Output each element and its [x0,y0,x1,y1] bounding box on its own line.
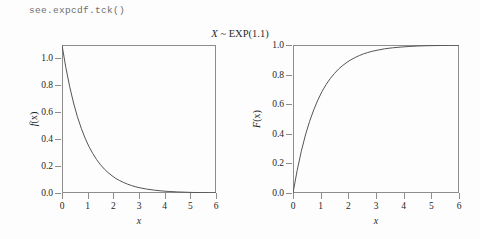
pdf-x-tick-label: 1 [85,201,90,211]
cdf-y-axis-title-arg: (x) [251,110,262,122]
cdf-x-tick [321,193,322,199]
cdf-plot-panel [293,45,459,193]
pdf-x-tick [139,193,140,199]
cdf-x-tick [431,193,432,199]
figure-title: X ~ EXP(1.1) [0,28,480,39]
pdf-x-tick-label: 4 [162,201,167,211]
pdf-x-tick-label: 6 [214,201,219,211]
cdf-y-tick [286,163,292,164]
pdf-y-tick [55,139,61,140]
cdf-y-tick [286,134,292,135]
cdf-y-tick [286,45,292,46]
cdf-x-tick [348,193,349,199]
cdf-x-tick [459,193,460,199]
cdf-x-tick-label: 1 [318,201,323,211]
cdf-y-axis-title: F(x) [251,110,262,128]
cdf-y-tick-label: 0.2 [272,158,284,168]
pdf-y-tick [55,193,61,194]
pdf-plot-panel [62,45,216,193]
pdf-y-tick [55,112,61,113]
cdf-y-tick-label: 0.0 [272,188,284,198]
pdf-x-tick-label: 5 [188,201,193,211]
pdf-x-tick-label: 2 [111,201,116,211]
pdf-y-tick-label: 0.4 [41,134,53,144]
pdf-x-tick [62,193,63,199]
cdf-x-axis-title: x [293,215,459,226]
console-command-text: see.expcdf.tck() [29,5,125,16]
pdf-y-tick [55,166,61,167]
cdf-y-tick [286,193,292,194]
pdf-y-axis-title-arg: (x) [28,112,39,124]
pdf-y-tick-label: 0.2 [41,161,53,171]
cdf-x-tick-label: 2 [346,201,351,211]
pdf-y-tick-label: 0.6 [41,107,53,117]
pdf-y-tick-label: 1.0 [41,53,53,63]
cdf-curve-svg [293,45,459,193]
pdf-x-tick-label: 3 [137,201,142,211]
figure-title-rest: ~ EXP(1.1) [218,28,269,39]
cdf-y-tick-label: 0.6 [272,99,284,109]
pdf-x-tick-label: 0 [60,201,65,211]
pdf-curve-path [62,45,216,193]
pdf-x-axis-title: x [62,215,216,226]
pdf-y-tick-label: 0.8 [41,80,53,90]
cdf-x-tick [293,193,294,199]
cdf-y-tick [286,104,292,105]
cdf-x-tick-label: 6 [457,201,462,211]
pdf-y-tick [55,58,61,59]
cdf-x-tick-label: 4 [401,201,406,211]
pdf-y-axis-title: f(x) [28,112,39,126]
cdf-curve-path [293,45,459,193]
pdf-y-axis-title-fn: f [28,123,39,126]
cdf-y-tick [286,75,292,76]
pdf-x-tick [113,193,114,199]
cdf-y-tick-label: 1.0 [272,40,284,50]
cdf-x-tick [404,193,405,199]
pdf-x-tick [88,193,89,199]
cdf-x-tick-label: 3 [374,201,379,211]
figure-canvas: see.expcdf.tck() X ~ EXP(1.1) 0.00.20.40… [0,0,480,239]
pdf-x-tick [216,193,217,199]
pdf-y-tick-label: 0.0 [41,188,53,198]
cdf-y-axis-title-fn: F [251,122,262,128]
cdf-x-tick-label: 0 [291,201,296,211]
cdf-y-tick-label: 0.8 [272,70,284,80]
pdf-x-tick [165,193,166,199]
pdf-x-tick [190,193,191,199]
cdf-x-tick [376,193,377,199]
cdf-x-tick-label: 5 [429,201,434,211]
cdf-y-tick-label: 0.4 [272,129,284,139]
pdf-curve-svg [62,45,216,193]
pdf-y-tick [55,85,61,86]
